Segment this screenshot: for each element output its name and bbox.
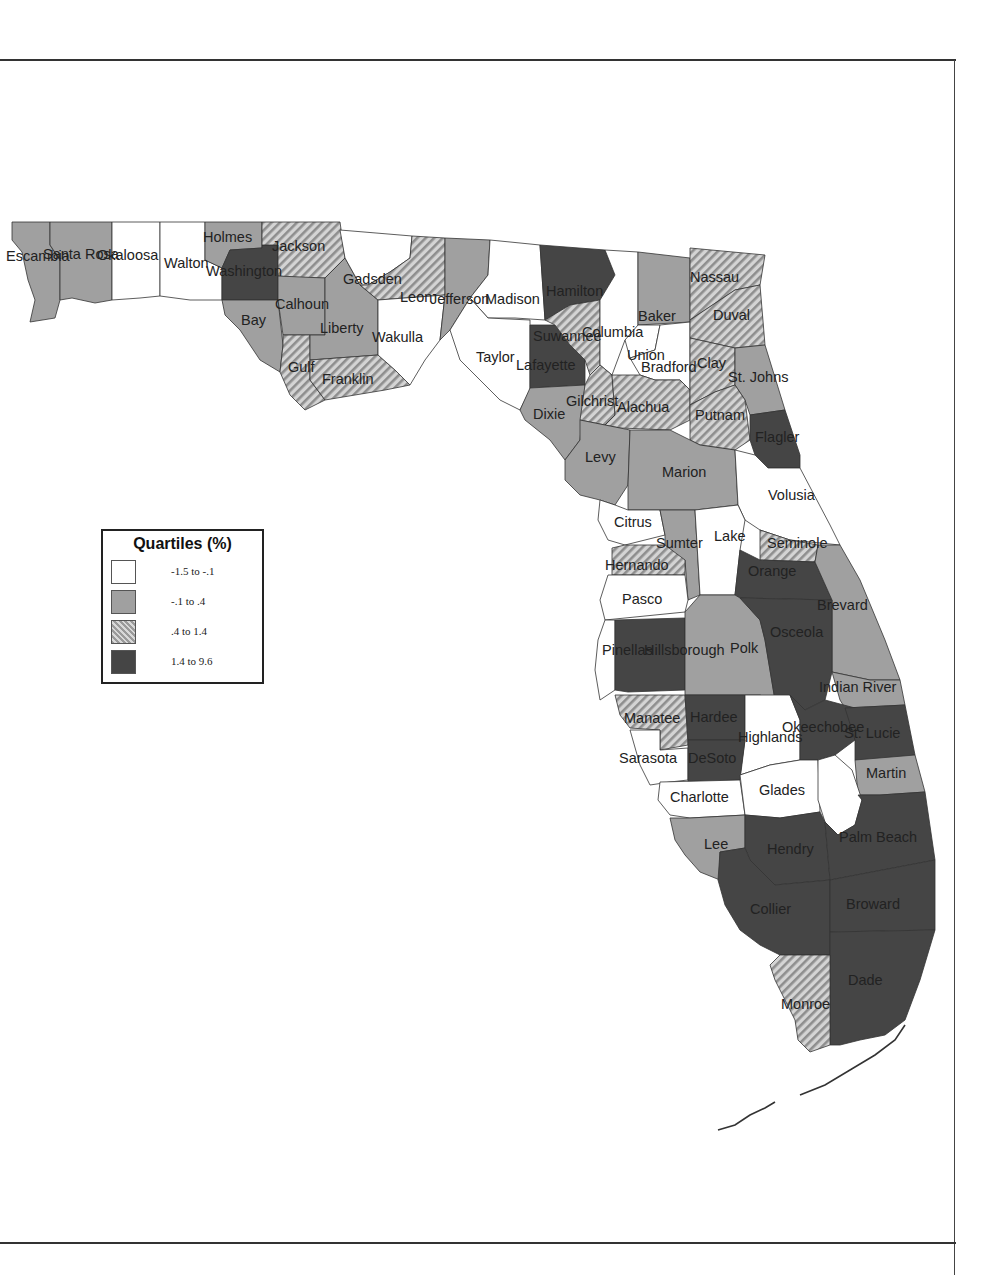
label-levy: Levy (585, 449, 616, 465)
label-washington: Washington (206, 263, 282, 279)
label-flagler: Flagler (755, 429, 799, 445)
label-monroe: Monroe (781, 996, 830, 1012)
label-hardee: Hardee (690, 709, 738, 725)
label-madison: Madison (485, 291, 540, 307)
label-putnam: Putnam (695, 407, 745, 423)
county-bay (222, 300, 283, 372)
legend-title: Quartiles (%) (103, 535, 262, 553)
label-manatee: Manatee (624, 710, 680, 726)
label-hamilton: Hamilton (546, 283, 603, 299)
label-brevard: Brevard (817, 597, 868, 613)
label-alachua: Alachua (617, 399, 670, 415)
label-taylor: Taylor (476, 349, 515, 365)
legend-swatch-gray (111, 590, 136, 614)
label-jackson: Jackson (272, 238, 325, 254)
label-hillsborough: Hillsborough (644, 642, 725, 658)
label-duval: Duval (713, 307, 750, 323)
label-seminole: Seminole (767, 535, 827, 551)
label-lafayette: Lafayette (516, 357, 576, 373)
label-dixie: Dixie (533, 406, 565, 422)
label-dade: Dade (848, 972, 883, 988)
legend-row-q2: -.1 to .4 (111, 590, 261, 616)
label-bay: Bay (241, 312, 267, 328)
legend-swatch-hatched (111, 620, 136, 644)
label-polk: Polk (730, 640, 759, 656)
label-gadsden: Gadsden (343, 271, 402, 287)
label-franklin: Franklin (322, 371, 374, 387)
label-wakulla: Wakulla (372, 329, 424, 345)
label-columbia: Columbia (582, 324, 644, 340)
label-pasco: Pasco (622, 591, 662, 607)
label-lee: Lee (704, 836, 728, 852)
legend-label: 1.4 to 9.6 (171, 655, 213, 667)
label-charlotte: Charlotte (670, 789, 729, 805)
label-sumter: Sumter (656, 535, 703, 551)
label-calhoun: Calhoun (275, 296, 329, 312)
label-leon: Leon (400, 289, 432, 305)
label-glades: Glades (759, 782, 805, 798)
label-indian-river: Indian River (819, 679, 897, 695)
label-martin: Martin (866, 765, 906, 781)
label-okaloosa: Okaloosa (97, 247, 159, 263)
label-palm-beach: Palm Beach (839, 829, 917, 845)
legend-label: -1.5 to -.1 (171, 565, 214, 577)
label-nassau: Nassau (690, 269, 739, 285)
legend-swatch-white (111, 560, 136, 584)
label-marion: Marion (662, 464, 706, 480)
label-desoto: DeSoto (688, 750, 736, 766)
label-hendry: Hendry (767, 841, 814, 857)
label-st-lucie: St. Lucie (844, 725, 900, 741)
label-walton: Walton (164, 255, 209, 271)
label-jefferson: Jefferson (430, 291, 489, 307)
label-hernando: Hernando (605, 557, 669, 573)
label-lake: Lake (714, 528, 745, 544)
map-legend: Quartiles (%) -1.5 to -.1 -.1 to .4 .4 t… (101, 529, 264, 684)
label-osceola: Osceola (770, 624, 824, 640)
label-collier: Collier (750, 901, 791, 917)
label-broward: Broward (846, 896, 900, 912)
legend-row-q4: 1.4 to 9.6 (111, 650, 261, 676)
label-gulf: Gulf (288, 359, 316, 375)
label-liberty: Liberty (320, 320, 364, 336)
legend-swatch-dark (111, 650, 136, 674)
label-orange: Orange (748, 563, 796, 579)
label-citrus: Citrus (614, 514, 652, 530)
legend-label: .4 to 1.4 (171, 625, 207, 637)
legend-row-q3: .4 to 1.4 (111, 620, 261, 646)
legend-row-q1: -1.5 to -.1 (111, 560, 261, 586)
label-bradford: Bradford (641, 359, 697, 375)
legend-label: -.1 to .4 (171, 595, 205, 607)
label-sarasota: Sarasota (619, 750, 678, 766)
label-volusia: Volusia (768, 487, 816, 503)
label-holmes: Holmes (203, 229, 252, 245)
label-st-johns: St. Johns (728, 369, 788, 385)
label-baker: Baker (638, 308, 676, 324)
county-pinellas (595, 620, 615, 700)
label-gilchrist: Gilchrist (566, 393, 618, 409)
label-clay: Clay (697, 355, 727, 371)
